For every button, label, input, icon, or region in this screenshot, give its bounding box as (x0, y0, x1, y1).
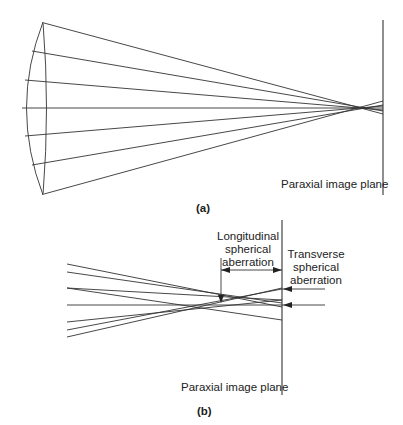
transverse-label: Transverse spherical aberration (286, 248, 346, 287)
lens (27, 22, 47, 195)
arrow-left-icon (283, 302, 292, 308)
longitudinal-label: Longitudinal spherical aberration (216, 230, 280, 269)
transverse-dimension (282, 289, 325, 305)
rays-b (67, 264, 282, 337)
longitudinal-label-line3: aberration (216, 256, 280, 269)
transverse-label-line2: spherical (286, 261, 346, 274)
longitudinal-label-line2: spherical (216, 243, 280, 256)
plane-label-b: Paraxial image plane (181, 381, 288, 394)
rays-a (22, 23, 383, 194)
plane-label-a: Paraxial image plane (281, 178, 388, 191)
transverse-label-line3: aberration (286, 274, 346, 287)
ray-b-extra (67, 288, 282, 320)
transverse-label-line1: Transverse (286, 248, 346, 261)
caption-a: (a) (196, 202, 210, 214)
caption-b: (b) (197, 405, 212, 417)
longitudinal-label-line1: Longitudinal (216, 230, 280, 243)
